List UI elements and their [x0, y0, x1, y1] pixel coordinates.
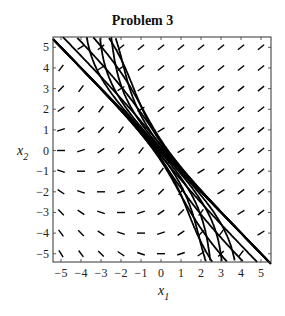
trajectory-curve	[82, 69, 210, 260]
direction-arrow	[218, 148, 224, 153]
trajectory-curve	[116, 38, 259, 251]
direction-arrow	[178, 210, 184, 216]
direction-arrow	[178, 231, 185, 235]
direction-arrow	[158, 66, 164, 71]
direction-arrow	[178, 86, 184, 91]
direction-arrow	[198, 127, 204, 132]
direction-arrow	[58, 190, 65, 194]
direction-arrow	[58, 210, 64, 216]
x-tick-label: 2	[198, 266, 204, 280]
direction-arrow	[238, 210, 245, 214]
direction-arrow	[238, 189, 244, 194]
y-tick-label: −2	[36, 185, 49, 199]
trajectory-curve	[64, 50, 206, 261]
direction-arrow	[78, 106, 84, 112]
direction-arrow	[58, 86, 64, 92]
x-tick-label: −1	[135, 266, 148, 280]
direction-arrow	[78, 230, 84, 236]
direction-arrow	[238, 107, 244, 112]
y-tick-label: −5	[36, 247, 49, 261]
direction-arrow	[97, 170, 105, 173]
phase-portrait-plot: −5−4−3−2−1012345 −5−4−3−2−1012345 x1 x2	[0, 0, 285, 316]
y-tick-label: 3	[43, 82, 49, 96]
x-tick-label: 1	[178, 266, 184, 280]
direction-arrow	[77, 149, 85, 152]
direction-arrow	[158, 128, 165, 132]
direction-arrow	[78, 128, 85, 132]
y-tick-label: 0	[43, 144, 49, 158]
direction-arrow	[258, 45, 264, 50]
direction-arrow	[178, 107, 184, 112]
trajectory-curve	[109, 38, 269, 262]
direction-arrow	[218, 107, 224, 112]
direction-arrow	[178, 66, 184, 71]
y-axis-label: x2	[16, 143, 28, 162]
x-tick-label: 5	[258, 266, 264, 280]
direction-arrow	[59, 230, 64, 236]
y-tick-label: 2	[43, 102, 49, 116]
y-tick-label: 4	[43, 61, 49, 75]
direction-arrow	[178, 127, 184, 132]
x-tick-label: −4	[75, 266, 88, 280]
direction-arrow	[139, 147, 144, 153]
direction-arrow	[99, 106, 104, 112]
trajectory-curve	[53, 40, 212, 262]
direction-arrow	[158, 45, 164, 50]
direction-arrow	[58, 107, 65, 112]
direction-arrow	[98, 148, 105, 153]
y-tick-label: −1	[36, 164, 49, 178]
y-tick-label: −4	[36, 226, 49, 240]
trajectory-curve	[102, 90, 221, 261]
direction-arrow	[218, 190, 225, 194]
direction-arrow	[218, 127, 224, 132]
y-tick-label: −3	[36, 205, 49, 219]
direction-arrow	[98, 251, 104, 257]
direction-arrow	[79, 85, 84, 91]
x-tick-label: −5	[55, 266, 68, 280]
direction-arrow	[138, 86, 144, 91]
direction-arrow	[218, 66, 224, 71]
trajectory-curve	[111, 37, 239, 231]
direction-arrow	[258, 86, 264, 91]
direction-arrow	[238, 127, 244, 132]
direction-arrow	[178, 149, 185, 153]
direction-arrow	[57, 129, 65, 132]
x-tick-label: 4	[238, 266, 244, 280]
direction-arrow	[158, 107, 164, 112]
x-tick-label: −3	[95, 266, 108, 280]
x-axis-label: x1	[157, 283, 169, 302]
direction-arrow	[238, 45, 244, 50]
separatrix-line	[53, 39, 271, 264]
direction-arrow	[158, 86, 164, 91]
trajectory-curve	[100, 38, 220, 211]
direction-arrow	[77, 191, 85, 194]
direction-arrow	[258, 231, 265, 235]
direction-arrow	[238, 148, 244, 153]
direction-arrow	[258, 169, 264, 174]
direction-arrow	[138, 190, 145, 194]
direction-arrow	[178, 45, 184, 50]
direction-arrow	[238, 169, 244, 174]
direction-arrow	[78, 210, 85, 215]
direction-arrow	[198, 86, 204, 91]
direction-arrow	[258, 107, 264, 112]
y-tick-label: 1	[43, 123, 49, 137]
direction-arrow	[138, 168, 144, 174]
direction-arrow	[98, 231, 105, 235]
direction-arrow	[158, 189, 164, 195]
y-tick-label: 5	[43, 40, 49, 54]
direction-arrow	[59, 250, 63, 257]
direction-arrow	[238, 86, 244, 91]
direction-arrow	[258, 127, 264, 132]
direction-arrow	[78, 45, 85, 49]
direction-arrow	[198, 45, 204, 50]
direction-arrow	[117, 232, 125, 235]
direction-arrow	[118, 169, 125, 173]
x-tick-label: 0	[158, 266, 164, 280]
x-tick-label: 3	[218, 266, 224, 280]
direction-arrow	[59, 65, 64, 71]
direction-arrow	[118, 252, 125, 257]
direction-arrow	[198, 66, 204, 71]
direction-arrow	[138, 66, 144, 71]
direction-arrow	[198, 107, 204, 112]
